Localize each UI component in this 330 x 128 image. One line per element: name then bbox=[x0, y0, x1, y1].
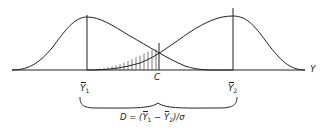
distribution-curve-2 bbox=[87, 16, 305, 70]
mean-1-label: Y1 bbox=[80, 84, 89, 94]
curly-brace bbox=[80, 97, 237, 108]
distribution-figure bbox=[0, 0, 330, 128]
y-axis-label: Y bbox=[310, 65, 316, 74]
distribution-curve-1 bbox=[12, 17, 233, 70]
mean-2-label: Y2 bbox=[228, 84, 237, 94]
diagram-canvas: Y C Y1 Y2 D = (Y1 − Y2)/σ bbox=[0, 0, 330, 128]
criterion-label: C bbox=[154, 73, 160, 82]
effect-size-formula: D = (Y1 − Y2)/σ bbox=[120, 113, 185, 123]
